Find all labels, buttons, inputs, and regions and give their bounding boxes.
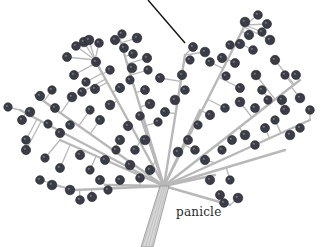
leader-line [148, 0, 185, 43]
main-stem [141, 186, 169, 247]
panicle-illustration [0, 0, 322, 247]
panicle-label: panicle [176, 205, 221, 219]
